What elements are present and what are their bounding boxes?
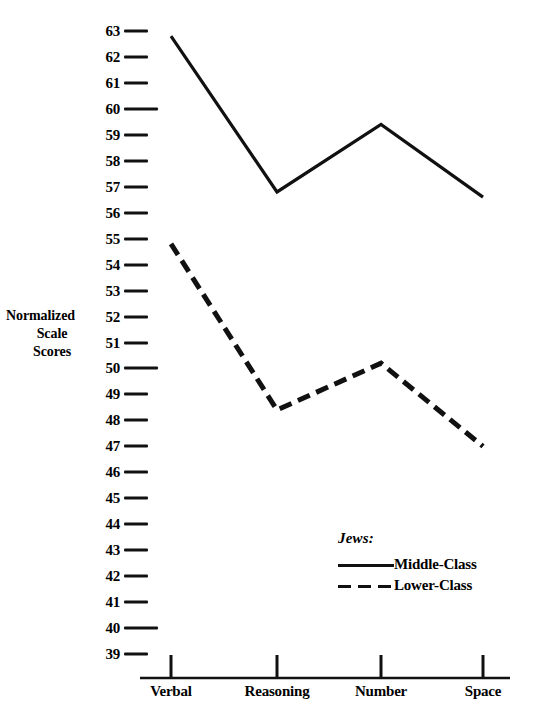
x-axis-layer	[140, 655, 510, 678]
plot-area	[0, 0, 537, 709]
legend-label-lower-class: Lower-Class	[394, 576, 472, 594]
series-line-middle-class	[171, 36, 483, 197]
x-axis-label-space: Space	[465, 684, 502, 699]
x-axis-label-number: Number	[355, 684, 407, 699]
legend-label-middle-class: Middle-Class	[394, 555, 477, 573]
chart-container: Normalized Scale Scores 6362616059585756…	[0, 0, 537, 709]
legend-item-lower-class: Lower-Class	[338, 576, 518, 597]
legend-swatch-dashed-line	[338, 585, 394, 588]
legend-item-middle-class: Middle-Class	[338, 555, 518, 576]
legend-title: Jews:	[338, 531, 518, 546]
series-layer	[171, 36, 483, 446]
legend-swatch-solid-line	[338, 564, 394, 567]
series-line-lower-class	[171, 244, 483, 446]
legend: Jews: Middle-Class Lower-Class	[338, 531, 518, 597]
x-axis-label-reasoning: Reasoning	[245, 684, 310, 699]
x-axis-label-verbal: Verbal	[150, 684, 192, 699]
